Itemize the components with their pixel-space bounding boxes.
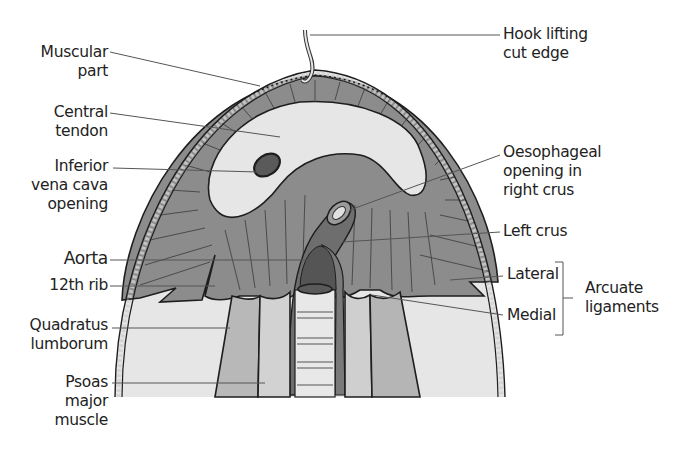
label-medial: Medial	[507, 306, 556, 325]
aorta-shape	[295, 284, 335, 397]
label-aorta: Aorta	[20, 249, 108, 268]
label-ivc-opening: Inferior vena cava opening	[10, 157, 108, 214]
label-quadratus-lumborum: Quadratus lumborum	[10, 316, 108, 354]
diaphragm-diagram: Muscular part Central tendon Inferior ve…	[0, 0, 676, 465]
label-psoas-major: Psoas major muscle	[20, 373, 108, 430]
label-muscular-part: Muscular part	[20, 43, 108, 81]
label-arcuate-ligaments: Arcuate ligaments	[585, 279, 659, 317]
label-central-tendon: Central tendon	[20, 103, 108, 141]
label-12th-rib: 12th rib	[20, 276, 108, 295]
label-left-crus: Left crus	[503, 222, 567, 241]
label-oesophageal-opening: Oesophageal opening in right crus	[503, 143, 601, 200]
label-hook: Hook lifting cut edge	[503, 25, 588, 63]
label-lateral: Lateral	[507, 265, 559, 284]
